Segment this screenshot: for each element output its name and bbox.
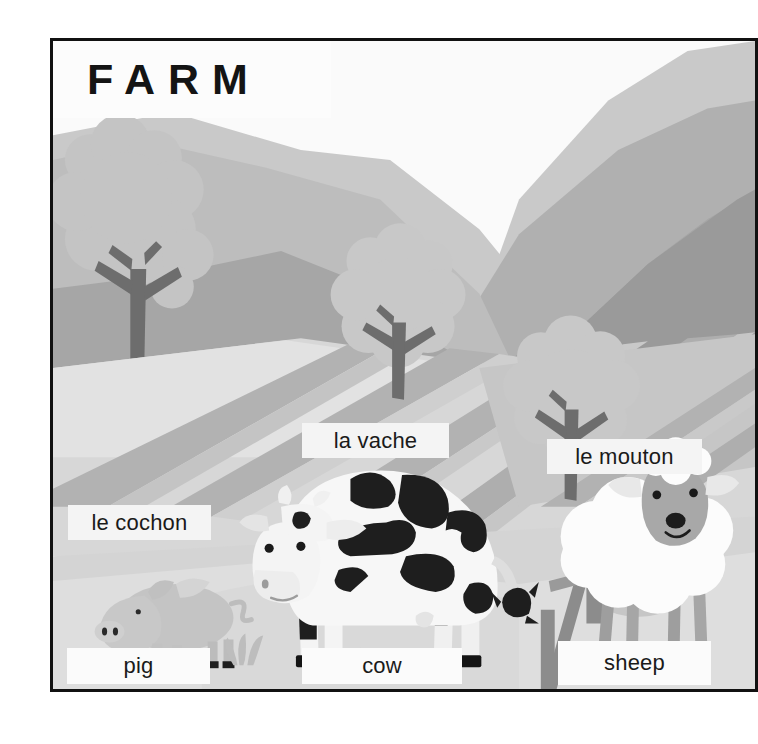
label-text: le mouton (575, 446, 673, 468)
pig-nostril (102, 628, 107, 636)
illustration-frame: FARM le cochon la vache le mouton pig co… (50, 38, 758, 692)
farm-scene-illustration (53, 41, 755, 689)
poster-root: FARM le cochon la vache le mouton pig co… (0, 0, 758, 744)
label-text: sheep (604, 652, 665, 674)
title-banner: FARM (53, 41, 331, 118)
pig-eye (136, 609, 141, 614)
sheep-eye (689, 488, 698, 497)
label-pig-english: pig (67, 648, 210, 684)
cow-nostril (262, 579, 269, 588)
page-title: FARM (87, 58, 261, 101)
label-text: cow (362, 655, 402, 677)
fence-post-short (541, 610, 555, 689)
sheep-nose (666, 513, 686, 529)
cow-eye (265, 544, 274, 553)
label-text: la vache (334, 430, 418, 452)
label-text: le cochon (92, 512, 188, 534)
pig-nostril (113, 628, 118, 636)
label-cow-english: cow (302, 648, 462, 684)
cow-eye (296, 542, 305, 551)
label-pig-french: le cochon (68, 505, 211, 540)
sheep-eye (652, 490, 661, 499)
pig-snout (95, 621, 125, 643)
label-text: pig (124, 655, 154, 677)
label-sheep-french: le mouton (547, 439, 702, 474)
label-sheep-english: sheep (558, 641, 711, 685)
label-cow-french: la vache (302, 423, 449, 458)
